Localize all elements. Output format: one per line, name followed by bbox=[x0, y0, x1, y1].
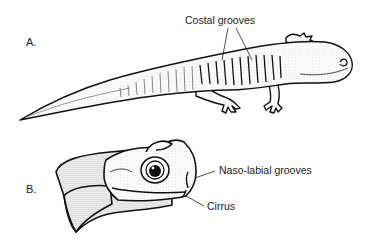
eye-b bbox=[141, 157, 169, 183]
cirrus-leader-line bbox=[186, 196, 204, 206]
naso-labial-grooves-label: Naso-labial grooves bbox=[219, 164, 312, 176]
panel-a-letter: A. bbox=[26, 36, 36, 48]
salamander-body bbox=[20, 33, 352, 120]
panel-b-letter: B. bbox=[26, 183, 36, 195]
salamander-illustration bbox=[0, 0, 373, 247]
cirrus-label: Cirrus bbox=[207, 200, 235, 212]
naso-labial-leader-line bbox=[195, 171, 215, 178]
costal-grooves-label: Costal grooves bbox=[185, 14, 255, 26]
salamander-head bbox=[56, 140, 196, 232]
